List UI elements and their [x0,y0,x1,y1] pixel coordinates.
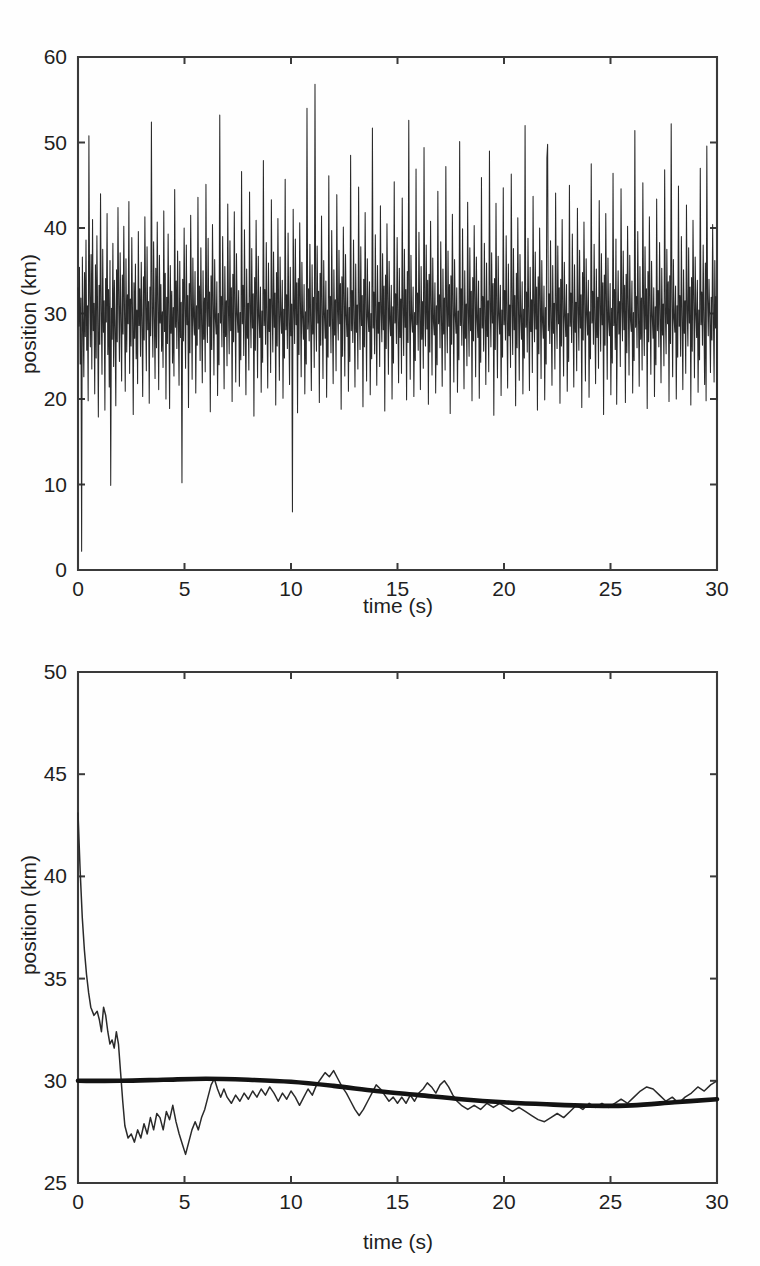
chart-panel-top: 0510152025300102030405060 time (s) posit… [0,0,760,630]
x-tick-label: 5 [179,577,191,600]
series-filter-estimate [78,813,717,1154]
series-true-trajectory [78,1079,717,1106]
y-tick-label: 25 [44,1171,67,1194]
y-tick-label: 50 [44,660,67,683]
x-tick-label: 10 [279,577,302,600]
x-tick-label: 25 [599,1190,622,1213]
y-tick-label: 20 [44,387,67,410]
x-tick-label: 10 [279,1190,302,1213]
y-tick-label: 60 [44,45,67,68]
x-tick-label: 20 [492,1190,515,1213]
x-tick-label: 5 [179,1190,191,1213]
x-tick-label: 0 [72,577,84,600]
x-tick-label: 30 [705,1190,728,1213]
top-plot-svg: 0510152025300102030405060 time (s) posit… [0,0,760,630]
y-tick-label: 45 [44,762,67,785]
x-tick-label: 0 [72,1190,84,1213]
y-tick-label: 10 [44,473,67,496]
series-noisy-measurement [78,84,717,551]
y-tick-label: 30 [44,1069,67,1092]
x-tick-label: 25 [599,577,622,600]
chart-panel-bottom: 051015202530253035404550 time (s) positi… [0,630,760,1266]
x-tick-label: 15 [386,1190,409,1213]
bottom-plot-series [78,813,717,1154]
top-x-axis-label: time (s) [363,594,433,617]
y-tick-label: 30 [44,302,67,325]
y-tick-label: 40 [44,864,67,887]
y-tick-label: 40 [44,216,67,239]
top-plot-series [78,84,717,551]
y-tick-label: 35 [44,967,67,990]
x-tick-label: 20 [492,577,515,600]
top-y-axis-label: position (km) [17,254,40,374]
y-tick-label: 50 [44,131,67,154]
bottom-x-axis-label: time (s) [363,1230,433,1253]
figure-container: 0510152025300102030405060 time (s) posit… [0,0,760,1266]
x-tick-label: 30 [705,577,728,600]
bottom-y-axis-label: position (km) [17,855,40,975]
y-tick-label: 0 [55,558,67,581]
bottom-plot-svg: 051015202530253035404550 time (s) positi… [0,630,760,1266]
